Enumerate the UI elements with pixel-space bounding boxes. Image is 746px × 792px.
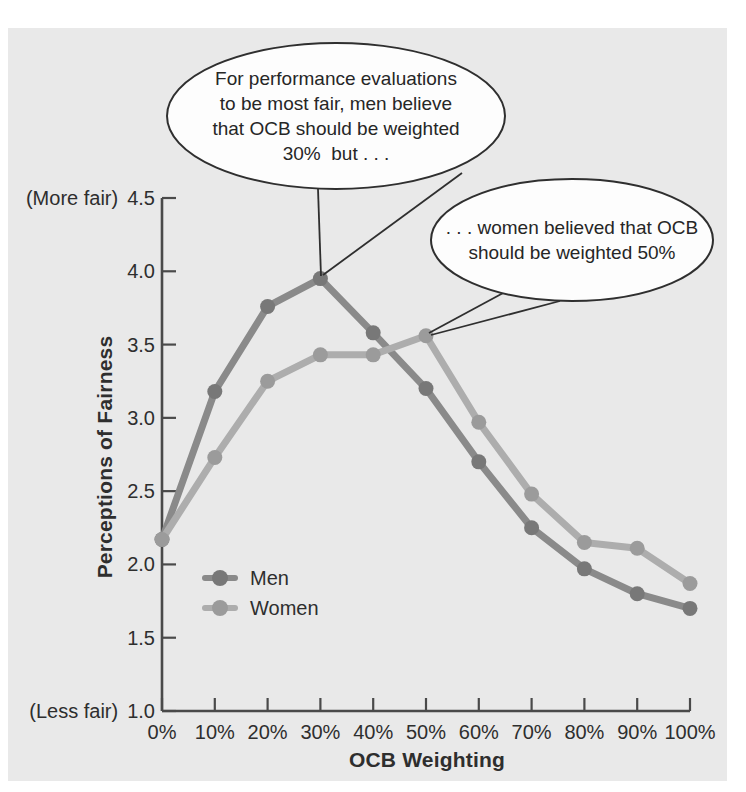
marker-women-100% xyxy=(683,576,698,591)
less-fair-note: (Less fair) xyxy=(29,700,118,722)
marker-men-20% xyxy=(260,299,275,314)
women-line-sample-icon xyxy=(202,600,238,616)
y-tick-value: 4.0 xyxy=(127,260,155,282)
x-tick-label-40%: 40% xyxy=(353,720,393,744)
women-callout-tail-top xyxy=(429,292,505,333)
y-tick-value: 2.5 xyxy=(127,480,155,502)
y-tick-label-1.0: (Less fair)1.0 xyxy=(29,699,155,723)
y-tick-label-2.5: 2.5 xyxy=(127,479,155,503)
marker-women-70% xyxy=(524,487,539,502)
x-tick-label-60%: 60% xyxy=(459,720,499,744)
y-tick-value: 3.0 xyxy=(127,407,155,429)
x-tick-label-0%: 0% xyxy=(148,720,177,744)
y-tick-value: 2.0 xyxy=(127,553,155,575)
y-tick-label-1.5: 1.5 xyxy=(127,626,155,650)
series-line-women xyxy=(162,336,690,584)
marker-men-80% xyxy=(577,561,592,576)
marker-women-0% xyxy=(155,532,170,547)
marker-women-20% xyxy=(260,374,275,389)
marker-men-10% xyxy=(207,384,222,399)
legend-item-men: Men xyxy=(202,563,319,593)
y-tick-label-3.5: 3.5 xyxy=(127,333,155,357)
x-tick-label-30%: 30% xyxy=(300,720,340,744)
y-axis-title: Perceptions of Fairness xyxy=(93,336,117,579)
marker-men-90% xyxy=(630,586,645,601)
men-callout-tail-left xyxy=(318,189,321,276)
marker-men-70% xyxy=(524,520,539,535)
x-axis-title: OCB Weighting xyxy=(349,748,505,772)
men-line-sample-icon xyxy=(202,570,238,586)
y-tick-value: 1.5 xyxy=(127,627,155,649)
x-tick-label-20%: 20% xyxy=(248,720,288,744)
series-line-men xyxy=(162,279,690,609)
y-tick-label-4.0: 4.0 xyxy=(127,259,155,283)
legend: Men Women xyxy=(202,563,319,623)
marker-women-80% xyxy=(577,535,592,550)
y-tick-label-3.0: 3.0 xyxy=(127,406,155,430)
y-tick-value: 1.0 xyxy=(127,700,155,722)
callout-women-text: . . . women believed that OCB should be … xyxy=(446,215,698,265)
y-tick-label-2.0: 2.0 xyxy=(127,552,155,576)
x-tick-label-80%: 80% xyxy=(564,720,604,744)
marker-men-100% xyxy=(683,601,698,616)
more-fair-note: (More fair) xyxy=(26,187,118,209)
marker-men-60% xyxy=(471,454,486,469)
x-tick-label-70%: 70% xyxy=(512,720,552,744)
y-tick-label-4.5: (More fair)4.5 xyxy=(26,186,155,210)
figure: Perceptions of Fairness OCB Weighting (M… xyxy=(0,0,746,792)
marker-women-90% xyxy=(630,541,645,556)
women-callout-tail-bottom xyxy=(431,301,560,335)
marker-women-30% xyxy=(313,347,328,362)
marker-men-50% xyxy=(419,381,434,396)
legend-item-women: Women xyxy=(202,593,319,623)
x-tick-label-10%: 10% xyxy=(195,720,235,744)
legend-label-women: Women xyxy=(250,597,319,620)
marker-men-40% xyxy=(366,325,381,340)
legend-label-men: Men xyxy=(250,567,289,590)
marker-women-10% xyxy=(207,450,222,465)
x-tick-label-90%: 90% xyxy=(617,720,657,744)
x-tick-label-100%: 100% xyxy=(664,720,715,744)
y-tick-value: 3.5 xyxy=(127,334,155,356)
marker-women-60% xyxy=(471,415,486,430)
x-tick-label-50%: 50% xyxy=(406,720,446,744)
callout-men-text: For performance evaluations to be most f… xyxy=(212,66,459,166)
marker-women-40% xyxy=(366,347,381,362)
y-tick-value: 4.5 xyxy=(127,187,155,209)
